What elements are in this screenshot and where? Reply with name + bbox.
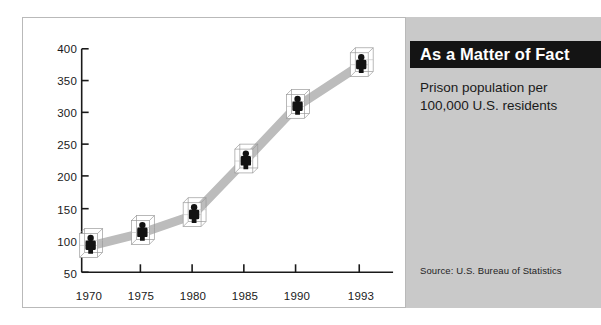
fact-description-line-2: 100,000 U.S. residents bbox=[420, 97, 596, 115]
line-chart-plot bbox=[23, 18, 405, 307]
fact-description: Prison population per 100,000 U.S. resid… bbox=[420, 79, 596, 115]
x-tick-label: 1975 bbox=[128, 290, 154, 302]
fact-source: Source: U.S. Bureau of Statistics bbox=[420, 265, 600, 276]
trend-line-band bbox=[89, 66, 360, 247]
x-tick-label: 1980 bbox=[180, 290, 206, 302]
fact-description-line-1: Prison population per bbox=[420, 79, 596, 97]
fact-panel: As a Matter of Fact Prison population pe… bbox=[406, 17, 601, 308]
y-tick-label: 100 bbox=[57, 236, 77, 248]
x-tick-label: 1990 bbox=[284, 290, 310, 302]
infographic-root: 400 350 300 250 200 150 100 50 1970 1975… bbox=[0, 0, 601, 325]
y-tick-label: 150 bbox=[57, 204, 77, 216]
fact-title: As a Matter of Fact bbox=[410, 45, 570, 64]
y-tick-label: 250 bbox=[57, 139, 77, 151]
fact-title-bar: As a Matter of Fact bbox=[410, 41, 601, 68]
x-axis bbox=[82, 264, 393, 272]
x-tick-label: 1970 bbox=[76, 290, 102, 302]
y-tick-label: 200 bbox=[57, 171, 77, 183]
y-tick-label: 300 bbox=[57, 107, 77, 119]
data-point-marker bbox=[350, 48, 373, 77]
x-tick-label: 1985 bbox=[232, 290, 258, 302]
chart-panel: 400 350 300 250 200 150 100 50 1970 1975… bbox=[22, 17, 406, 308]
y-tick-label: 50 bbox=[64, 268, 77, 280]
y-tick-label: 400 bbox=[57, 43, 77, 55]
y-tick-label: 350 bbox=[57, 75, 77, 87]
x-tick-label: 1993 bbox=[348, 290, 374, 302]
